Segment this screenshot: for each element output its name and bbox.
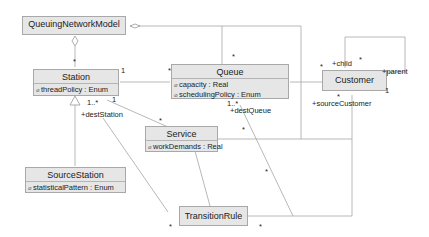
- attribute: ⌀statisticalPattern : Enum: [28, 183, 123, 193]
- class-name: Station: [34, 70, 118, 83]
- class-source-station[interactable]: SourceStation ⌀statisticalPattern : Enum: [25, 167, 126, 193]
- multiplicity: 1: [112, 95, 116, 104]
- attribute: ⌀capacity : Real: [174, 80, 286, 90]
- class-name: QueuingNetworkModel: [23, 17, 125, 30]
- class-name: TransitionRule: [180, 207, 247, 222]
- multiplicity: *: [337, 92, 340, 101]
- attribute-icon: ⌀: [174, 92, 178, 98]
- attribute-icon: ⌀: [148, 144, 152, 150]
- attribute-icon: ⌀: [174, 82, 178, 88]
- multiplicity: 1: [385, 86, 389, 95]
- multiplicity: *: [168, 66, 171, 75]
- role-parent: +parent: [382, 67, 408, 76]
- class-transition-rule[interactable]: TransitionRule: [179, 206, 248, 226]
- multiplicity: *: [232, 52, 235, 61]
- class-service[interactable]: Service ⌀workDemands : Real: [145, 126, 218, 152]
- class-queuing-network-model[interactable]: QueuingNetworkModel: [22, 16, 126, 35]
- multiplicity: *: [320, 62, 323, 71]
- class-name: SourceStation: [26, 168, 125, 181]
- multiplicity: *: [259, 222, 262, 231]
- multiplicity: *: [169, 222, 172, 231]
- multiplicity: *: [265, 167, 268, 176]
- attribute: ⌀workDemands : Real: [148, 142, 215, 152]
- attribute: ⌀threadPolicy : Enum: [36, 85, 116, 95]
- multiplicity: *: [159, 116, 162, 125]
- role-source-customer: +sourceCustomer: [312, 99, 371, 108]
- attribute-icon: ⌀: [28, 185, 32, 191]
- class-name: Service: [146, 127, 217, 140]
- class-station[interactable]: Station ⌀threadPolicy : Enum: [33, 69, 119, 96]
- multiplicity: *: [359, 55, 362, 64]
- multiplicity: *: [73, 57, 76, 66]
- multiplicity: 1..*: [227, 99, 238, 108]
- attribute-icon: ⌀: [36, 87, 40, 93]
- class-name: Queue: [172, 65, 288, 78]
- multiplicity: 1: [121, 66, 125, 75]
- association-lines: [0, 0, 429, 237]
- multiplicity: *: [242, 125, 245, 134]
- class-name: Customer: [323, 71, 386, 86]
- role-dest-station: +destStation: [81, 110, 123, 119]
- class-customer[interactable]: Customer: [322, 70, 387, 91]
- multiplicity: 1..*: [87, 98, 98, 107]
- class-queue[interactable]: Queue ⌀capacity : Real ⌀schedulingPolicy…: [171, 64, 289, 99]
- role-child: +child: [332, 59, 352, 68]
